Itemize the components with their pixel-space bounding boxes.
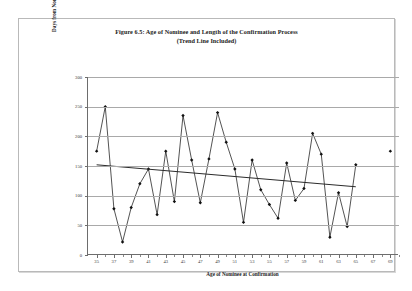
x-axis-tick-label: 65 bbox=[349, 259, 363, 264]
data-point-marker bbox=[164, 149, 167, 152]
y-axis-tick bbox=[85, 255, 88, 256]
x-axis-tick bbox=[313, 255, 314, 257]
y-axis-tick bbox=[85, 225, 88, 226]
x-axis-tick-label: 61 bbox=[314, 259, 328, 264]
x-axis-tick bbox=[200, 255, 201, 258]
x-axis-tick-label: 37 bbox=[107, 259, 121, 264]
x-axis-tick bbox=[321, 255, 322, 258]
y-axis-tick bbox=[85, 196, 88, 197]
data-point-marker bbox=[259, 188, 262, 191]
x-axis-tick bbox=[97, 255, 98, 258]
data-point-marker bbox=[121, 240, 124, 243]
x-axis-tick bbox=[166, 255, 167, 258]
x-axis-tick bbox=[295, 255, 296, 257]
x-axis-tick-label: 53 bbox=[245, 259, 259, 264]
x-axis-tick bbox=[235, 255, 236, 258]
y-axis-tick-label: 0 bbox=[60, 253, 82, 258]
figure-title: Figure 6.5: Age of Nominee and Length of… bbox=[19, 28, 394, 45]
x-axis-tick-label: 47 bbox=[193, 259, 207, 264]
data-point-marker bbox=[207, 157, 210, 160]
gridline-horizontal bbox=[88, 225, 399, 226]
x-axis-tick-label: 59 bbox=[297, 259, 311, 264]
data-point-marker bbox=[389, 149, 392, 152]
x-axis-tick bbox=[399, 255, 400, 257]
gridline-horizontal bbox=[88, 166, 399, 167]
figure-frame: Figure 6.5: Age of Nominee and Length of… bbox=[18, 18, 395, 272]
x-axis-tick bbox=[382, 255, 383, 257]
figure-title-line-1: Figure 6.5: Age of Nominee and Length of… bbox=[115, 28, 298, 35]
x-axis-tick bbox=[114, 255, 115, 258]
x-axis-tick bbox=[356, 255, 357, 258]
y-axis-tick-label: 50 bbox=[60, 223, 82, 228]
x-axis-tick bbox=[226, 255, 227, 257]
x-axis-tick-label: 69 bbox=[383, 259, 397, 264]
x-axis-tick bbox=[183, 255, 184, 258]
x-axis-tick-label: 49 bbox=[211, 259, 225, 264]
x-axis-title: Age of Nominee at Confirmation bbox=[87, 271, 398, 277]
x-axis-tick bbox=[218, 255, 219, 258]
data-point-marker bbox=[138, 182, 141, 185]
data-point-marker bbox=[225, 141, 228, 144]
y-axis-tick-label: 200 bbox=[60, 134, 82, 139]
x-axis-tick bbox=[192, 255, 193, 257]
x-axis-tick bbox=[373, 255, 374, 258]
x-axis-tick bbox=[304, 255, 305, 258]
y-axis-tick bbox=[85, 136, 88, 137]
y-axis-tick-label: 150 bbox=[60, 164, 82, 169]
gridline-horizontal bbox=[88, 77, 399, 78]
data-series-line bbox=[97, 107, 356, 242]
x-axis-tick bbox=[269, 255, 270, 258]
x-axis-tick bbox=[252, 255, 253, 258]
gridline-horizontal bbox=[88, 107, 399, 108]
data-point-marker bbox=[173, 200, 176, 203]
plot-area: 0501001502002503003537394143454749515355… bbox=[87, 77, 398, 255]
data-point-marker bbox=[129, 206, 132, 209]
gridline-horizontal bbox=[88, 196, 399, 197]
x-axis-tick bbox=[278, 255, 279, 257]
x-axis-tick bbox=[148, 255, 149, 258]
y-axis-title: Days from Nomination to Confirmation bbox=[51, 0, 61, 77]
x-axis-tick-label: 55 bbox=[262, 259, 276, 264]
x-axis-tick-label: 51 bbox=[228, 259, 242, 264]
data-point-marker bbox=[311, 132, 314, 135]
data-point-marker bbox=[250, 158, 253, 161]
trend-line bbox=[97, 165, 356, 187]
y-axis-tick bbox=[85, 107, 88, 108]
y-axis-tick-label: 300 bbox=[60, 75, 82, 80]
figure-title-line-2: (Trend Line Included) bbox=[19, 37, 394, 46]
data-point-marker bbox=[199, 201, 202, 204]
y-axis-tick bbox=[85, 77, 88, 78]
data-point-marker bbox=[233, 167, 236, 170]
data-point-marker bbox=[181, 114, 184, 117]
x-axis-tick bbox=[131, 255, 132, 258]
x-axis-tick bbox=[347, 255, 348, 257]
x-axis-tick bbox=[287, 255, 288, 258]
x-axis-tick bbox=[244, 255, 245, 257]
x-axis-tick-label: 57 bbox=[280, 259, 294, 264]
data-point-marker bbox=[112, 207, 115, 210]
x-axis-tick bbox=[390, 255, 391, 258]
data-point-marker bbox=[320, 152, 323, 155]
x-axis-tick-label: 67 bbox=[366, 259, 380, 264]
x-axis-tick bbox=[157, 255, 158, 257]
x-axis-tick-label: 63 bbox=[332, 259, 346, 264]
data-point-marker bbox=[328, 236, 331, 239]
gridline-horizontal bbox=[88, 136, 399, 137]
x-axis-tick bbox=[261, 255, 262, 257]
x-axis-tick bbox=[364, 255, 365, 257]
y-axis-tick-label: 100 bbox=[60, 193, 82, 198]
x-axis-tick-label: 39 bbox=[124, 259, 138, 264]
x-axis-tick-label: 43 bbox=[159, 259, 173, 264]
data-point-marker bbox=[216, 111, 219, 114]
x-axis-tick-label: 41 bbox=[141, 259, 155, 264]
x-axis-tick bbox=[140, 255, 141, 257]
x-axis-tick-label: 35 bbox=[90, 259, 104, 264]
data-point-marker bbox=[95, 149, 98, 152]
x-axis-tick bbox=[330, 255, 331, 257]
figure-page: Figure 6.5: Age of Nominee and Length of… bbox=[0, 0, 412, 291]
x-axis-tick bbox=[105, 255, 106, 257]
x-axis-tick bbox=[209, 255, 210, 257]
data-point-marker bbox=[337, 191, 340, 194]
y-axis-tick-label: 250 bbox=[60, 104, 82, 109]
x-axis-tick-label: 45 bbox=[176, 259, 190, 264]
